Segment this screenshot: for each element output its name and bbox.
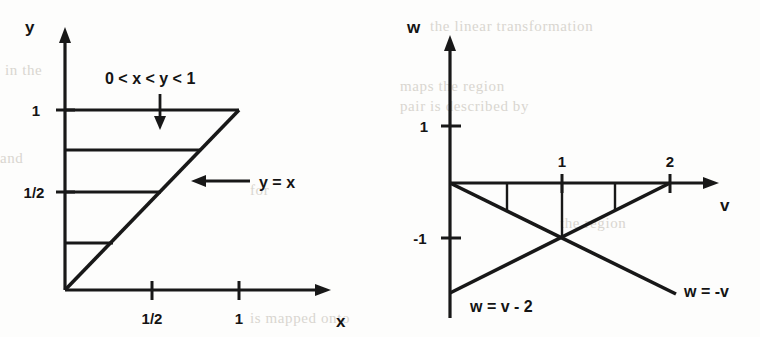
y-axis-label: y: [25, 18, 35, 37]
line-annotation-right-label: w = -v: [683, 283, 729, 300]
w-tick-label-minus-1: -1: [413, 230, 426, 247]
v-axis-arrowhead: [703, 177, 719, 189]
y-axis-arrowhead: [59, 27, 71, 43]
v-axis-label: v: [720, 196, 730, 215]
region-annotation-label: 0 < x < y < 1: [105, 70, 195, 87]
line-annotation-pointer-arrowhead: [191, 175, 206, 187]
y-tick-label-1: 1: [32, 102, 40, 119]
x-axis-arrowhead: [315, 284, 331, 296]
y-tick-label-half: 1/2: [24, 184, 45, 201]
right-plot: w v 1 -1 1 2 w = v - 2 w = -v: [406, 18, 730, 318]
left-plot: y x 1 1/2 1/2 1 0 < x < y < 1: [24, 18, 346, 331]
x-tick-label-half: 1/2: [142, 310, 163, 327]
v-tick-label-2: 2: [666, 153, 674, 170]
figure-sheet: the linear transformation in the maps th…: [0, 0, 760, 337]
line-y-equals-x: [65, 110, 239, 290]
w-axis-arrowhead: [444, 35, 456, 51]
line-annotation-label: y = x: [259, 174, 295, 191]
w-axis-label: w: [406, 18, 421, 37]
figure-canvas: y x 1 1/2 1/2 1 0 < x < y < 1: [0, 0, 760, 337]
line-annotation-left-label: w = v - 2: [469, 298, 533, 315]
x-axis-label: x: [336, 312, 346, 331]
region-annotation-pointer-arrowhead: [154, 116, 166, 130]
w-tick-label-1: 1: [420, 118, 428, 135]
x-tick-label-1: 1: [235, 310, 243, 327]
v-tick-label-1: 1: [558, 153, 566, 170]
